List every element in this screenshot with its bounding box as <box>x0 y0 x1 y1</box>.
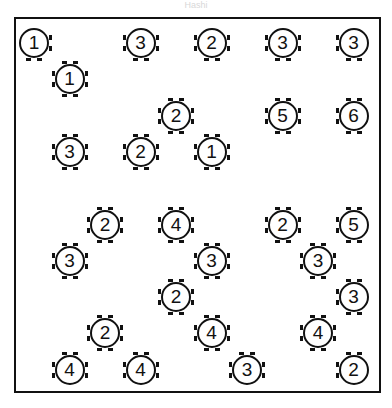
bridge-stub-icon <box>62 352 67 355</box>
island-node[interactable]: 4 <box>126 355 156 385</box>
bridge-stub-icon <box>133 352 138 355</box>
bridge-stub-icon <box>52 373 55 378</box>
bridge-stub-icon <box>262 373 265 378</box>
bridge-stub-icon <box>357 98 362 101</box>
island-node[interactable]: 2 <box>268 210 298 240</box>
bridge-stub-icon <box>275 98 280 101</box>
bridge-stub-icon <box>265 228 268 233</box>
bridge-stub-icon <box>85 144 88 149</box>
island-node[interactable]: 4 <box>161 210 191 240</box>
bridge-stub-icon <box>156 144 159 149</box>
bridge-stub-icon <box>204 276 209 279</box>
island-node[interactable]: 1 <box>55 64 85 94</box>
bridge-stub-icon <box>52 71 55 76</box>
island-node[interactable]: 2 <box>161 282 191 312</box>
bridge-stub-icon <box>227 46 230 51</box>
bridge-stub-icon <box>357 312 362 315</box>
bridge-stub-icon <box>346 98 351 101</box>
island-value: 3 <box>64 141 75 163</box>
island-value: 5 <box>348 214 359 236</box>
bridge-stub-icon <box>87 336 90 341</box>
island-node[interactable]: 3 <box>126 28 156 58</box>
bridge-stub-icon <box>194 144 197 149</box>
island-node[interactable]: 3 <box>339 282 369 312</box>
island-value: 2 <box>135 141 146 163</box>
bridge-stub-icon <box>123 362 126 367</box>
bridge-stub-icon <box>204 315 209 318</box>
bridge-stub-icon <box>265 108 268 113</box>
bridge-stub-icon <box>168 98 173 101</box>
bridge-stub-icon <box>333 253 336 258</box>
bridge-stub-icon <box>227 144 230 149</box>
island-node[interactable]: 2 <box>161 101 191 131</box>
bridge-stub-icon <box>194 35 197 40</box>
bridge-stub-icon <box>346 312 351 315</box>
island-node[interactable]: 5 <box>268 101 298 131</box>
bridge-stub-icon <box>300 264 303 269</box>
bridge-stub-icon <box>158 217 161 222</box>
bridge-stub-icon <box>158 119 161 124</box>
bridge-stub-icon <box>346 279 351 282</box>
island-node[interactable]: 2 <box>339 355 369 385</box>
bridge-stub-icon <box>286 58 291 61</box>
bridge-stub-icon <box>321 348 326 351</box>
bridge-stub-icon <box>357 131 362 134</box>
island-value: 1 <box>206 141 217 163</box>
bridge-stub-icon <box>336 362 339 367</box>
bridge-stub-icon <box>120 336 123 341</box>
bridge-stub-icon <box>227 35 230 40</box>
bridge-stub-icon <box>120 228 123 233</box>
bridge-stub-icon <box>300 253 303 258</box>
bridge-stub-icon <box>179 98 184 101</box>
bridge-stub-icon <box>194 253 197 258</box>
island-node[interactable]: 3 <box>232 355 262 385</box>
island-node[interactable]: 1 <box>19 28 49 58</box>
island-node[interactable]: 3 <box>55 246 85 276</box>
bridge-stub-icon <box>123 46 126 51</box>
bridge-stub-icon <box>144 352 149 355</box>
island-node[interactable]: 3 <box>303 246 333 276</box>
island-value: 4 <box>135 359 146 381</box>
bridge-stub-icon <box>191 217 194 222</box>
island-value: 3 <box>348 286 359 308</box>
island-node[interactable]: 3 <box>268 28 298 58</box>
bridge-stub-icon <box>97 240 102 243</box>
bridge-stub-icon <box>357 240 362 243</box>
bridge-stub-icon <box>298 217 301 222</box>
bridge-stub-icon <box>336 46 339 51</box>
island-value: 2 <box>171 105 182 127</box>
island-node[interactable]: 3 <box>197 246 227 276</box>
island-value: 3 <box>313 250 324 272</box>
bridge-stub-icon <box>123 35 126 40</box>
bridge-stub-icon <box>229 362 232 367</box>
island-node[interactable]: 2 <box>90 210 120 240</box>
island-node[interactable]: 2 <box>126 137 156 167</box>
bridge-stub-icon <box>191 108 194 113</box>
bridge-stub-icon <box>156 155 159 160</box>
bridge-stub-icon <box>204 134 209 137</box>
island-node[interactable]: 3 <box>55 137 85 167</box>
bridge-stub-icon <box>333 325 336 330</box>
bridge-stub-icon <box>286 131 291 134</box>
bridge-stub-icon <box>85 264 88 269</box>
island-node[interactable]: 3 <box>339 28 369 58</box>
bridge-stub-icon <box>262 362 265 367</box>
island-node[interactable]: 4 <box>197 318 227 348</box>
bridge-stub-icon <box>156 35 159 40</box>
island-node[interactable]: 4 <box>55 355 85 385</box>
bridge-stub-icon <box>123 144 126 149</box>
bridge-stub-icon <box>62 94 67 97</box>
island-node[interactable]: 6 <box>339 101 369 131</box>
bridge-stub-icon <box>346 352 351 355</box>
bridge-stub-icon <box>62 61 67 64</box>
bridge-stub-icon <box>191 228 194 233</box>
bridge-stub-icon <box>336 373 339 378</box>
island-node[interactable]: 2 <box>197 28 227 58</box>
island-node[interactable]: 5 <box>339 210 369 240</box>
island-node[interactable]: 1 <box>197 137 227 167</box>
island-value: 3 <box>135 32 146 54</box>
bridge-stub-icon <box>97 315 102 318</box>
bridge-stub-icon <box>229 373 232 378</box>
bridge-stub-icon <box>168 279 173 282</box>
bridge-stub-icon <box>179 207 184 210</box>
